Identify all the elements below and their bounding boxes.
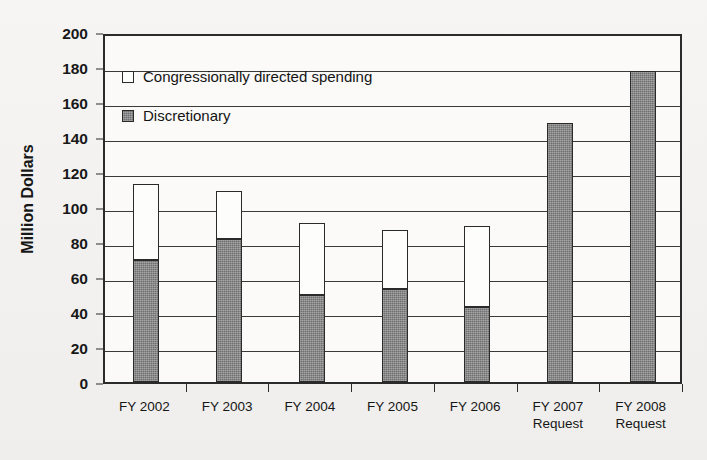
x-axis-tick-label: FY 2003 [181,398,273,415]
bar-segment-discretionary[interactable] [382,289,408,382]
stacked-bar-chart: 020406080100120140160180200 Million Doll… [0,0,707,460]
legend-label: Discretionary [143,107,231,124]
bar-segment-congressional[interactable] [133,184,159,259]
y-axis-tick-label: 120 [28,165,88,183]
bar-segment-discretionary[interactable] [299,295,325,383]
y-axis-tick-label: 140 [28,130,88,148]
y-axis-tick [96,139,103,140]
y-axis-tick [96,349,103,350]
legend-swatch-congressional [122,71,134,83]
y-axis-tick-label: 60 [28,270,88,288]
x-axis-tick-label-line2: Request [512,415,604,432]
y-axis-tick [96,34,103,35]
x-axis-tick [599,384,600,392]
y-axis-tick [96,174,103,175]
x-axis-tick [517,384,518,392]
y-axis-tick-label: 160 [28,95,88,113]
x-axis-tick-label-line1: FY 2003 [202,399,253,414]
x-axis-tick-label: FY 2002 [98,398,190,415]
y-axis-tick [96,384,103,385]
x-axis-tick [186,384,187,392]
y-axis-tick-label: 200 [28,25,88,43]
y-axis-tick-label: 40 [28,305,88,323]
bar-group[interactable] [464,32,490,382]
chart-legend: Congressionally directed spendingDiscret… [122,68,372,146]
x-axis-tick-label: FY 2005 [347,398,439,415]
x-axis-tick-label: FY 2006 [429,398,521,415]
x-axis-tick-label-line1: FY 2005 [367,399,418,414]
x-axis-tick [682,384,683,392]
y-axis-tick [96,314,103,315]
x-axis-tick [268,384,269,392]
bar-segment-congressional[interactable] [382,230,408,290]
y-axis-tick [96,209,103,210]
x-axis-tick-label: FY 2004 [264,398,356,415]
y-axis-tick [96,69,103,70]
bar-segment-discretionary[interactable] [133,260,159,383]
y-axis-tick [96,104,103,105]
y-axis-tick [96,279,103,280]
x-axis-tick-label-line1: FY 2004 [284,399,335,414]
bar-segment-discretionary[interactable] [216,239,242,383]
bar-group[interactable] [547,32,573,382]
bar-segment-congressional[interactable] [464,226,490,307]
y-axis-tick-label: 80 [28,235,88,253]
x-axis-tick-label: FY 2008Request [595,398,687,432]
y-axis-tick-label: 20 [28,340,88,358]
y-axis-tick [96,244,103,245]
bar-segment-discretionary[interactable] [464,307,490,382]
bar-segment-congressional[interactable] [216,191,242,238]
legend-swatch-discretionary [122,110,134,122]
y-axis-title: Million Dollars [19,99,37,299]
bar-group[interactable] [382,32,408,382]
y-axis-tick-label: 100 [28,200,88,218]
legend-label: Congressionally directed spending [143,68,372,85]
x-axis-tick-label-line1: FY 2008 [615,399,666,414]
x-axis-tick-label-line1: FY 2007 [533,399,584,414]
y-axis: 020406080100120140160180200 [0,0,103,460]
legend-item[interactable]: Discretionary [122,107,372,124]
bar-segment-discretionary[interactable] [630,71,656,383]
bar-segment-congressional[interactable] [299,223,325,295]
x-axis-tick [351,384,352,392]
legend-item[interactable]: Congressionally directed spending [122,68,372,85]
bar-segment-discretionary[interactable] [547,123,573,382]
y-axis-tick-label: 0 [28,375,88,393]
x-axis-tick [434,384,435,392]
x-axis-tick-label: FY 2007Request [512,398,604,432]
x-axis-tick-label-line1: FY 2006 [450,399,501,414]
y-axis-tick-label: 180 [28,60,88,78]
x-axis-tick-label-line2: Request [595,415,687,432]
x-axis-tick-label-line1: FY 2002 [119,399,170,414]
bar-group[interactable] [630,32,656,382]
